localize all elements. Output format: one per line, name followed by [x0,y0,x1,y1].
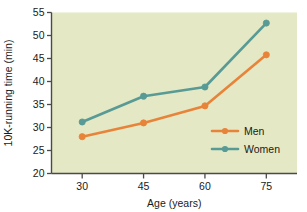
x-axis-title: Age (years) [147,197,201,209]
data-point-men-30[interactable] [79,134,85,140]
data-point-women-75[interactable] [263,20,269,26]
y-axis-tick-label: 45 [33,52,45,64]
y-axis-tick-label: 40 [33,75,45,87]
y-axis-tick-label: 25 [33,144,45,156]
legend-label-men: Men [244,125,265,137]
legend-swatch-marker-women [222,146,228,152]
y-axis-tick-label: 30 [33,121,45,133]
x-axis-tick-label: 60 [199,180,211,192]
y-axis-tick-label: 50 [33,29,45,41]
chart-figure: 202530354045505530456075Age (years)10K-r… [0,0,307,212]
x-axis-tick-label: 75 [260,180,272,192]
y-axis-title: 10K-running time (min) [2,40,14,147]
y-axis-tick-label: 35 [33,98,45,110]
x-axis-tick-label: 30 [76,180,88,192]
y-axis-tick-label: 55 [33,6,45,18]
data-point-women-30[interactable] [79,119,85,125]
legend-swatch-marker-men [222,128,228,134]
x-axis-tick-label: 45 [138,180,150,192]
data-point-women-45[interactable] [140,93,146,99]
data-point-women-60[interactable] [202,84,208,90]
data-point-men-60[interactable] [202,103,208,109]
data-point-men-75[interactable] [263,52,269,58]
line-chart: 202530354045505530456075Age (years)10K-r… [0,0,307,212]
legend-label-women: Women [244,143,280,155]
y-axis-tick-label: 20 [33,167,45,179]
data-point-men-45[interactable] [140,120,146,126]
